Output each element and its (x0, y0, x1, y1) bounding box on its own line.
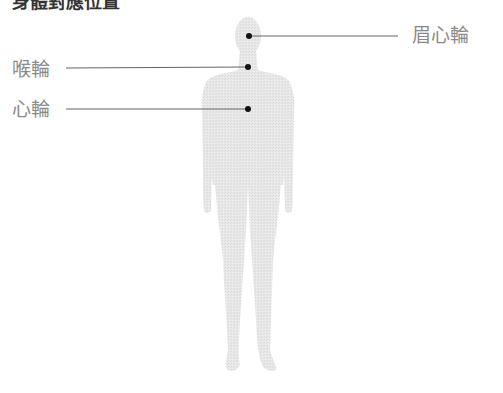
brow-chakra-marker (246, 33, 398, 39)
throat-chakra-label: 喉輪 (12, 58, 50, 80)
body-diagram (0, 0, 503, 393)
throat-chakra-marker (66, 64, 251, 70)
body-silhouette (202, 17, 295, 371)
brow-chakra-label: 眉心輪 (412, 24, 469, 46)
heart-chakra-label: 心輪 (12, 98, 50, 120)
